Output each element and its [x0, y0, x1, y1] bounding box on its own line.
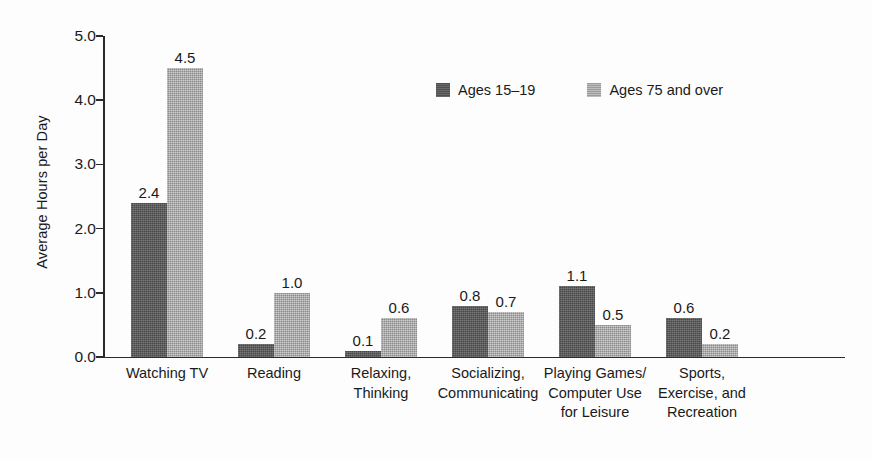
- bar[interactable]: 1.0: [274, 293, 310, 357]
- y-axis-tick-mark: [96, 35, 103, 37]
- bar-value-label: 1.1: [559, 268, 595, 286]
- x-axis-category-label: Reading: [212, 364, 336, 384]
- y-axis-tick-label: 0.0: [56, 349, 96, 365]
- bar-value-label: 4.5: [167, 50, 203, 68]
- bar-value-label: 0.7: [488, 294, 524, 312]
- legend-entry[interactable]: Ages 15–19: [436, 82, 535, 98]
- bar[interactable]: 0.5: [595, 325, 631, 357]
- bar[interactable]: 4.5: [167, 68, 203, 357]
- bar[interactable]: 0.8: [452, 306, 488, 357]
- bar-value-label: 2.4: [131, 185, 167, 203]
- y-axis-tick-mark: [96, 292, 103, 294]
- y-axis-tick-label: 5.0: [56, 28, 96, 44]
- x-axis-category-label: Playing Games/ Computer Use for Leisure: [533, 364, 657, 423]
- y-axis-tick-mark: [96, 164, 103, 166]
- bar-chart: Average Hours per Day 0.01.02.03.04.05.0…: [0, 0, 872, 461]
- bar[interactable]: 0.2: [702, 344, 738, 357]
- legend-label: Ages 75 and over: [609, 82, 723, 98]
- x-axis-category-label: Sports, Exercise, and Recreation: [640, 364, 764, 423]
- x-axis-category-label: Relaxing, Thinking: [319, 364, 443, 403]
- bar[interactable]: 0.7: [488, 312, 524, 357]
- y-axis-tick-label: 1.0: [56, 285, 96, 301]
- y-axis-tick-mark: [96, 99, 103, 101]
- bar-value-label: 0.1: [345, 333, 381, 351]
- legend-swatch-icon: [436, 83, 450, 97]
- bar[interactable]: 2.4: [131, 203, 167, 357]
- bar-value-label: 0.6: [381, 300, 417, 318]
- legend-swatch-icon: [587, 83, 601, 97]
- chart-legend: Ages 15–19Ages 75 and over: [436, 82, 723, 98]
- bar-value-label: 0.6: [666, 300, 702, 318]
- bar[interactable]: 0.6: [666, 318, 702, 357]
- legend-label: Ages 15–19: [458, 82, 535, 98]
- bar[interactable]: 0.2: [238, 344, 274, 357]
- y-axis-tick-mark: [96, 228, 103, 230]
- bar-value-label: 1.0: [274, 275, 310, 293]
- bar[interactable]: 0.6: [381, 318, 417, 357]
- y-axis-tick-label: 2.0: [56, 221, 96, 237]
- bar-group: 0.21.0: [238, 36, 310, 357]
- legend-entry[interactable]: Ages 75 and over: [587, 82, 723, 98]
- bar-group: 2.44.5: [131, 36, 203, 357]
- x-axis-category-labels: Watching TVReadingRelaxing, ThinkingSoci…: [103, 364, 845, 459]
- bar[interactable]: 1.1: [559, 286, 595, 357]
- x-axis-category-label: Watching TV: [105, 364, 229, 384]
- bar-value-label: 0.5: [595, 307, 631, 325]
- bar-value-label: 0.8: [452, 288, 488, 306]
- bar-group: 0.10.6: [345, 36, 417, 357]
- y-axis-tick-labels: 0.01.02.03.04.05.0: [52, 0, 96, 461]
- x-axis-category-label: Socializing, Communicating: [426, 364, 550, 403]
- y-axis-tick-label: 3.0: [56, 156, 96, 172]
- bar[interactable]: 0.1: [345, 351, 381, 357]
- y-axis-tick-label: 4.0: [56, 92, 96, 108]
- bar-value-label: 0.2: [702, 326, 738, 344]
- bar-value-label: 0.2: [238, 326, 274, 344]
- y-axis-tick-mark: [96, 356, 103, 358]
